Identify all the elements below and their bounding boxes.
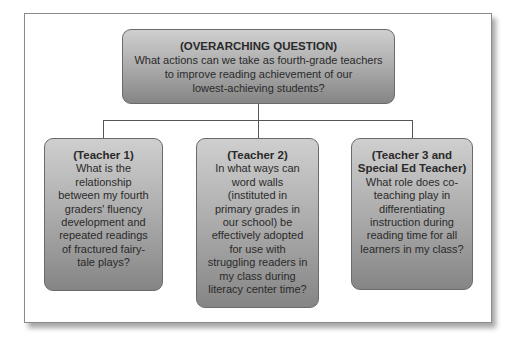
teacher-2-line: primary grades in <box>201 203 314 216</box>
teacher-3-heading: (Teacher 3 and <box>356 149 468 162</box>
teacher-2-line: struggling readers in <box>201 256 314 269</box>
teacher-2-line: literacy center time? <box>201 283 314 296</box>
connector-root-stem <box>258 104 259 120</box>
diagram-stage: (OVERARCHING QUESTION) What actions can … <box>0 0 518 341</box>
teacher-2-line: (instituted in <box>201 189 314 202</box>
teacher-2-line: our school) be <box>201 216 314 229</box>
teacher-2-question-node: (Teacher 2) In what ways can word walls … <box>196 138 319 308</box>
teacher-1-line: repeated readings <box>49 229 158 242</box>
teacher-3-line: reading time for all <box>356 229 468 242</box>
teacher-3-line: teaching play in <box>356 189 468 202</box>
teacher-1-question-node: (Teacher 1) What is the relationship bet… <box>44 138 163 291</box>
teacher-2-line: word walls <box>201 176 314 189</box>
teacher-2-line: In what ways can <box>201 162 314 175</box>
teacher-1-line: tale plays? <box>49 256 158 269</box>
connector-to-teacher-3 <box>412 120 413 138</box>
teacher-2-line: effectively adopted <box>201 229 314 242</box>
connector-to-teacher-2 <box>258 120 259 138</box>
teacher-3-line: learners in my class? <box>356 243 468 256</box>
teacher-2-line: my class during <box>201 270 314 283</box>
teacher-1-line: between my fourth <box>49 189 158 202</box>
overarching-question-line: lowest-achieving students? <box>123 81 394 95</box>
teacher-1-line: graders' fluency <box>49 203 158 216</box>
teacher-2-heading: (Teacher 2) <box>201 149 314 162</box>
connector-to-teacher-1 <box>103 120 104 138</box>
teacher-1-line: of fractured fairy- <box>49 243 158 256</box>
overarching-question-line: What actions can we take as fourth-grade… <box>123 53 394 67</box>
teacher-3-question-node: (Teacher 3 and Special Ed Teacher) What … <box>351 138 473 290</box>
overarching-question-node: (OVERARCHING QUESTION) What actions can … <box>122 29 395 104</box>
teacher-1-line: development and <box>49 216 158 229</box>
teacher-1-heading: (Teacher 1) <box>49 149 158 162</box>
teacher-2-line: for use with <box>201 243 314 256</box>
teacher-1-line: relationship <box>49 176 158 189</box>
overarching-question-heading: (OVERARCHING QUESTION) <box>123 39 394 53</box>
teacher-1-line: What is the <box>49 162 158 175</box>
overarching-question-line: to improve reading achievement of our <box>123 67 394 81</box>
teacher-3-line: differentiating <box>356 203 468 216</box>
teacher-3-line: instruction during <box>356 216 468 229</box>
teacher-3-line: What role does co- <box>356 176 468 189</box>
teacher-3-heading: Special Ed Teacher) <box>356 162 468 175</box>
